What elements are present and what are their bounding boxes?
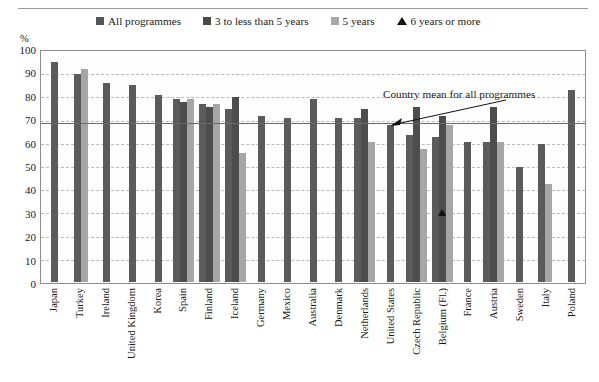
chart-page: All programmes3 to less than 5 years5 ye…: [0, 0, 599, 382]
bar-group[interactable]: [429, 52, 455, 282]
bar[interactable]: [420, 149, 427, 282]
bar[interactable]: [368, 142, 375, 282]
bar-group[interactable]: [558, 52, 584, 282]
x-axis-label-cell: Finland: [196, 288, 222, 380]
x-axis-label-cell: Ireland: [93, 288, 119, 380]
bar[interactable]: [103, 83, 110, 282]
bar-group[interactable]: [223, 52, 249, 282]
x-axis-label-cell: United Kingdom: [119, 288, 145, 380]
y-axis-tick-label: 40: [2, 184, 36, 196]
bar[interactable]: [490, 107, 497, 283]
x-axis-tick-label: Japan: [49, 288, 60, 312]
bar[interactable]: [81, 69, 88, 282]
bar[interactable]: [516, 167, 523, 282]
x-axis-label-cell: United States: [378, 288, 404, 380]
legend-item-label: 3 to less than 5 years: [215, 15, 309, 27]
x-axis-label-cell: Netherlands: [352, 288, 378, 380]
header-divider: [18, 8, 588, 9]
x-axis-label-cell: Korea: [145, 288, 171, 380]
header-ghost-text: [18, 0, 588, 6]
legend-item-label: 5 years: [343, 15, 375, 27]
bar[interactable]: [173, 99, 180, 282]
bar[interactable]: [545, 184, 552, 282]
bar-group[interactable]: [352, 52, 378, 282]
bar-group[interactable]: [481, 52, 507, 282]
y-axis: 1009080706050403020100: [0, 50, 36, 284]
bar-group[interactable]: [68, 52, 94, 282]
x-axis-label-cell: Germany: [248, 288, 274, 380]
bar[interactable]: [446, 125, 453, 282]
x-axis-tick-label: Austria: [489, 288, 500, 319]
bar[interactable]: [284, 118, 291, 282]
bar[interactable]: [497, 142, 504, 282]
triangle-data-point[interactable]: [438, 209, 446, 216]
bar[interactable]: [213, 104, 220, 282]
legend-item-label: All programmes: [108, 15, 181, 27]
bar-group[interactable]: [145, 52, 171, 282]
legend-item[interactable]: All programmes: [96, 15, 181, 27]
bar[interactable]: [51, 62, 58, 282]
x-axis-tick-label: Mexico: [282, 288, 293, 320]
x-axis-label-cell: Czech Republic: [404, 288, 430, 380]
x-axis-label-cell: France: [456, 288, 482, 380]
bar[interactable]: [74, 74, 81, 282]
bar[interactable]: [239, 153, 246, 282]
legend-item[interactable]: 5 years: [331, 15, 375, 27]
square-swatch-icon: [331, 17, 339, 25]
bar-group[interactable]: [119, 52, 145, 282]
x-axis-tick-label: Ireland: [101, 288, 112, 318]
bar[interactable]: [354, 118, 361, 282]
bar[interactable]: [180, 102, 187, 282]
bar[interactable]: [483, 142, 490, 282]
bar[interactable]: [232, 97, 239, 282]
bar-group[interactable]: [300, 52, 326, 282]
legend-item[interactable]: 6 years or more: [397, 15, 481, 27]
bar-groups: [42, 52, 584, 282]
bar[interactable]: [310, 99, 317, 282]
bar-group[interactable]: [326, 52, 352, 282]
y-axis-tick-label: 60: [2, 138, 36, 150]
y-axis-tick-label: 100: [2, 44, 36, 56]
bar[interactable]: [406, 135, 413, 282]
bar[interactable]: [464, 142, 471, 282]
country-mean-annotation: Country mean for all programmes: [383, 88, 535, 100]
x-axis-tick-label: Iceland: [230, 288, 241, 319]
bar-group[interactable]: [378, 52, 404, 282]
bar[interactable]: [568, 90, 575, 282]
bar-group[interactable]: [403, 52, 429, 282]
x-axis-label-cell: Mexico: [274, 288, 300, 380]
bar-group[interactable]: [171, 52, 197, 282]
legend-item[interactable]: 3 to less than 5 years: [203, 15, 309, 27]
bar[interactable]: [335, 118, 342, 282]
bar-group[interactable]: [507, 52, 533, 282]
bar-group[interactable]: [249, 52, 275, 282]
bar-group[interactable]: [274, 52, 300, 282]
bar[interactable]: [187, 99, 194, 282]
x-axis-label-cell: Austria: [481, 288, 507, 380]
bar[interactable]: [387, 125, 394, 282]
x-axis-label-cell: Poland: [559, 288, 585, 380]
bar[interactable]: [258, 116, 265, 282]
bar-group[interactable]: [197, 52, 223, 282]
x-axis-label-cell: Belgium (Fl.): [430, 288, 456, 380]
bar[interactable]: [439, 116, 446, 282]
y-axis-tick-label: 20: [2, 231, 36, 243]
bar-group[interactable]: [532, 52, 558, 282]
bar[interactable]: [361, 109, 368, 282]
bar[interactable]: [129, 85, 136, 282]
bar-group[interactable]: [455, 52, 481, 282]
bar[interactable]: [413, 107, 420, 283]
bar[interactable]: [206, 107, 213, 283]
x-axis-label-cell: Italy: [533, 288, 559, 380]
bar-group[interactable]: [94, 52, 120, 282]
bar[interactable]: [225, 109, 232, 282]
x-axis-labels: JapanTurkeyIrelandUnited KingdomKoreaSpa…: [41, 288, 585, 380]
x-axis-label-cell: Japan: [41, 288, 67, 380]
bar[interactable]: [538, 144, 545, 282]
y-axis-unit-label: %: [20, 33, 29, 44]
square-swatch-icon: [96, 17, 104, 25]
bar-group[interactable]: [42, 52, 68, 282]
x-axis-tick-label: United States: [385, 288, 396, 344]
bar[interactable]: [199, 104, 206, 282]
x-axis-tick-label: Sweden: [515, 288, 526, 321]
